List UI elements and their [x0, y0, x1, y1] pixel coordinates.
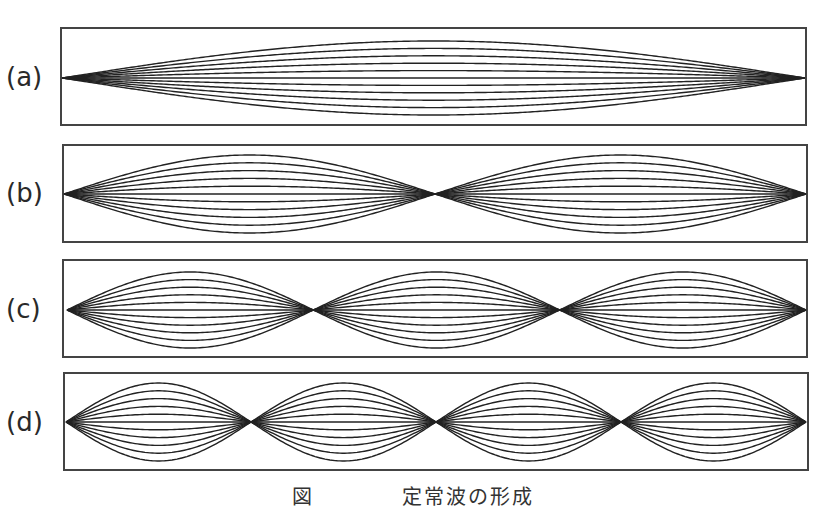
- panel-label-a: (a): [6, 64, 42, 90]
- panel-c: [63, 260, 807, 357]
- figure-caption: 図 定常波の形成: [0, 481, 826, 510]
- wave-curve: [62, 41, 805, 78]
- wave-curve: [62, 78, 805, 115]
- panel-frame: [63, 260, 807, 357]
- panel-label-b: (b): [6, 180, 43, 206]
- panel-d: [64, 373, 808, 470]
- panel-label-d: (d): [6, 409, 43, 435]
- panel-b: [63, 145, 807, 242]
- panel-label-c: (c): [6, 296, 41, 322]
- panel-a: [61, 28, 806, 125]
- panel-frame: [61, 28, 806, 125]
